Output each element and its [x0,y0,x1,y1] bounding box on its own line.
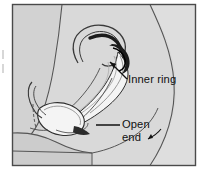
label-open-end-line1: Open [122,118,150,130]
diagram-canvas: Inner ring Open end [0,0,202,173]
female-condom-diagram: Inner ring Open end [0,0,202,173]
label-open-end-line2: end [122,131,141,143]
illustration-body: Inner ring Open end [13,5,196,166]
label-inner-ring: Inner ring [128,73,176,85]
